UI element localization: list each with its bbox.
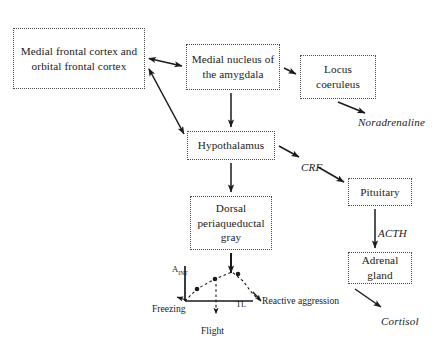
inset-label-reactive-aggression: Reactive aggression (262, 295, 320, 306)
connector-adrenal-cortisol (355, 289, 381, 307)
node-locus-coeruleus[interactable]: Locus coeruleus (300, 55, 376, 99)
label-cortisol: Cortisol (381, 315, 419, 327)
inset-y-axis-subscript: INT (178, 270, 188, 276)
figure-canvas: Medial frontal cortex and orbital fronta… (0, 0, 440, 345)
connector-mfc-hypothalamus (149, 69, 184, 134)
node-adrenal-gland[interactable]: Adrenal gland (348, 252, 412, 284)
node-label: Medial frontal cortex and orbital fronta… (14, 44, 144, 74)
inset-y-axis-label: AINT (172, 264, 188, 276)
connector-locus-noradrenaline (338, 102, 365, 113)
connector-hypothalamus-crf (279, 146, 299, 157)
inset-label-text: Reactive aggression (262, 295, 339, 306)
label-acth: ACTH (378, 227, 407, 239)
node-label: Locus coeruleus (301, 62, 375, 92)
inset-arrow-freezing (177, 297, 186, 300)
connector-amygdala-locus (284, 68, 296, 74)
node-medial-frontal-cortex[interactable]: Medial frontal cortex and orbital fronta… (13, 28, 145, 89)
node-hypothalamus[interactable]: Hypothalamus (187, 131, 275, 160)
inset-data-point (236, 272, 241, 277)
inset-trend-line (185, 272, 259, 301)
node-label: Dorsal periaqueductal gray (191, 201, 271, 245)
inset-arrow-reactive-aggression (253, 292, 261, 301)
inset-label-flight: Flight (201, 325, 224, 336)
inset-label-freezing: Freezing (152, 303, 186, 314)
node-dorsal-periaqueductal-gray[interactable]: Dorsal periaqueductal gray (190, 196, 272, 250)
connector-mfc-amygdala (149, 59, 182, 67)
node-label: Adrenal gland (349, 253, 411, 283)
node-label: Pituitary (357, 185, 402, 200)
node-pituitary[interactable]: Pituitary (348, 178, 412, 206)
label-crf: CRF (301, 161, 322, 173)
node-medial-nucleus-amygdala[interactable]: Medial nucleus of the amygdala (186, 44, 280, 90)
inset-x-axis-label: TL (236, 300, 246, 309)
node-label: Hypothalamus (195, 138, 267, 153)
inset-data-point (213, 277, 218, 282)
inset-data-point (195, 287, 200, 292)
label-noradrenaline: Noradrenaline (358, 116, 425, 128)
node-label: Medial nucleus of the amygdala (187, 52, 279, 82)
